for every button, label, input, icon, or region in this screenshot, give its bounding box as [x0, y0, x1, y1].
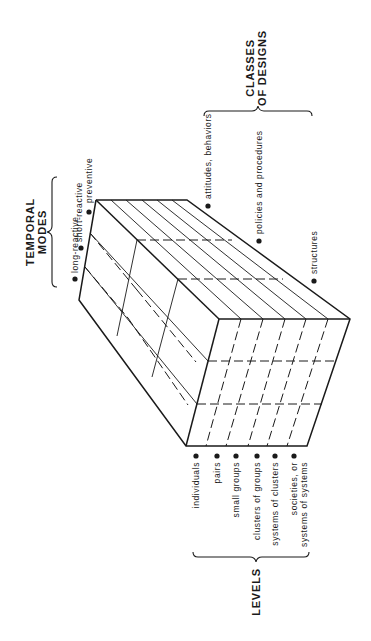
- cube-diagram: TEMPORAL MODES long-reactive short-react…: [0, 0, 371, 641]
- bullet-icon: [214, 453, 219, 458]
- bullet-icon: [233, 453, 238, 458]
- bullet-icon: [254, 453, 259, 458]
- level-small-groups: small groups: [231, 462, 241, 517]
- temporal-modes-group: TEMPORAL MODES long-reactive short-react…: [24, 158, 94, 287]
- bullet-icon: [272, 453, 277, 458]
- top-face-level-lines: [111, 200, 328, 319]
- temporal-modes-brace: [47, 177, 57, 287]
- front-face-level-dashes: [206, 319, 328, 446]
- classes-brace: [204, 106, 312, 116]
- temporal-modes-title-line2: MODES: [36, 210, 48, 254]
- class-attitudes-behaviors: attitudes, behaviors: [203, 113, 213, 199]
- level-societies: societies, or: [289, 462, 299, 515]
- temporal-mode-preventive: preventive: [84, 158, 94, 203]
- levels-title: LEVELS: [250, 568, 262, 616]
- bullet-icon: [205, 203, 210, 208]
- level-systems-of-systems: systems of systems: [299, 462, 309, 547]
- level-systems-of-clusters: systems of clusters: [270, 462, 280, 546]
- left-face-class-lines: [85, 233, 208, 404]
- level-individuals: individuals: [191, 462, 201, 508]
- bullet-icon: [311, 278, 316, 283]
- bullet-icon: [193, 453, 198, 458]
- classes-title-line2: OF DESIGNS: [256, 30, 268, 106]
- bullet-icon: [291, 453, 296, 458]
- classes-of-designs-group: CLASSES OF DESIGNS attitudes, behaviors …: [203, 30, 319, 284]
- levels-group: individuals pairs small groups clusters …: [191, 453, 309, 615]
- bullet-icon: [86, 209, 91, 214]
- levels-brace: [193, 552, 309, 562]
- classes-title: CLASSES: [244, 39, 256, 97]
- level-clusters-of-groups: clusters of groups: [252, 462, 262, 540]
- level-pairs: pairs: [212, 462, 222, 483]
- class-policies-procedures: policies and procedures: [254, 130, 264, 234]
- temporal-mode-short-reactive: short-reactive: [74, 182, 84, 242]
- left-face-dashes: [85, 233, 196, 405]
- temporal-modes-title: TEMPORAL: [24, 198, 36, 266]
- class-structures: structures: [309, 231, 319, 274]
- bullet-icon: [78, 245, 83, 250]
- left-face-temporal-lines: [117, 240, 178, 377]
- bullet-icon: [72, 276, 77, 281]
- bullet-icon: [256, 238, 261, 243]
